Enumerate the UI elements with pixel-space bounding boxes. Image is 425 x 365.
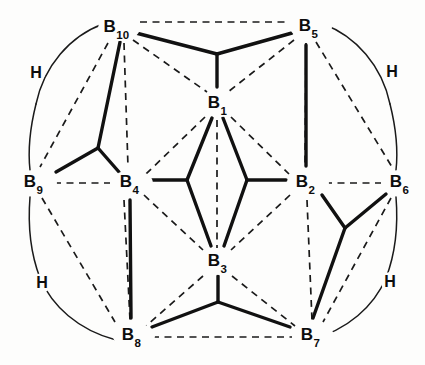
dashed-bond-B1-B4 [146,117,205,174]
vertex-index-subscript: 5 [311,27,317,39]
bridge-B10-B9-B4 [56,42,120,172]
vertex-label-b4: B4 [120,173,139,194]
bridge-B2-B6-B7-arm-B2 [322,195,345,228]
bridge-arc-arc-lower-left [29,197,40,278]
vertex-element-symbol: B [208,93,220,112]
bridge-B2-B6-B7 [313,194,386,318]
vertex-index-subscript: 1 [220,104,226,116]
vertex-index-subscript: 6 [402,183,408,195]
bridge-B2-B6-B7-arm-B7 [313,228,345,318]
bridge-B10-B9-B4-arm-B9 [56,148,98,172]
vertex-label-b5: B5 [299,17,318,38]
bridge-B1-B4-B3-arm-B3 [187,180,211,246]
hydrogen-label-h-upper-right: H [386,64,398,80]
vertex-label-b1: B1 [208,94,227,115]
vertex-element-symbol: B [103,17,115,36]
structure-svg [0,0,425,365]
vertex-element-symbol: B [299,16,311,35]
bridge-B10-B5-B1 [136,33,292,87]
vertex-index-subscript: 2 [308,183,314,195]
vertex-element-symbol: B [301,325,313,344]
bridge-B1-B4-B3-arm-B1 [187,118,212,180]
vertex-label-b8: B8 [122,326,141,347]
bridge-B1-B2-B3-arm-B1 [223,118,247,180]
dashed-bond-B2-B7 [307,200,312,320]
bridge-B1-B2-B3 [223,118,286,246]
bridge-B10-B9-B4-arm-B4 [98,148,119,172]
vertex-label-b9: B9 [24,173,43,194]
bridge-arc-arc-upper-left [36,24,103,104]
vertex-element-symbol: B [122,325,134,344]
vertex-index-subscript: 9 [36,183,42,195]
hydrogen-label-h-lower-left: H [36,275,48,291]
hydrogen-label-h-upper-left: H [30,65,42,81]
decaborane-structure-diagram: B10B5B1B9B4B2B6B3B8B7 HHHH [0,0,425,365]
vertex-label-b2: B2 [296,173,315,194]
bridge-arc-arc-right-upper-tail [390,104,397,170]
hydrogen-label-h-lower-right: H [384,274,396,290]
dashed-bond-B10-B4 [124,43,128,167]
bridge-arc-arc-lower-right [386,197,397,278]
vertex-label-b3: B3 [208,252,227,273]
bridge-arc-arc-left-lower-tail [40,278,116,340]
vertex-label-b6: B6 [390,173,409,194]
bridge-arc-arc-upper-right [323,24,390,104]
bridge-B2-B6-B7-arm-B6 [345,194,386,228]
bridge-arc-arc-left-upper-tail [29,104,36,170]
bridge-B1-B4-B3 [150,118,212,246]
bridge-B10-B9-B4-arm-B10 [98,42,120,148]
dashed-bond-B5-B6 [316,42,392,167]
bridge-B3-B8-B7-arm-B7 [218,302,290,327]
vertex-index-subscript: 4 [132,183,138,195]
vertex-element-symbol: B [120,172,132,191]
vertex-index-subscript: 3 [220,262,226,274]
vertex-element-symbol: B [24,172,36,191]
vertex-label-b7: B7 [301,326,320,347]
vertex-element-symbol: B [296,172,308,191]
vertex-element-symbol: B [208,251,220,270]
vertex-element-symbol: B [390,172,402,191]
solid-bond-B4-B8 [130,200,131,318]
dashed-bond-B9-B8 [42,198,115,322]
vertex-index-subscript: 7 [313,336,319,348]
bridge-B3-B8-B7-arm-B8 [152,302,218,327]
vertex-index-subscript: 10 [116,28,129,40]
bridge-B1-B2-B3-arm-B3 [224,180,247,246]
vertex-index-subscript: 8 [134,336,140,348]
vertex-label-b10: B10 [103,18,128,39]
bridging-hydrogen-arcs [29,24,397,340]
